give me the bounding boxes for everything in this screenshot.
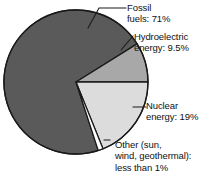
pie-label-nuclear: Nuclear energy: 19% xyxy=(146,100,198,123)
pie-label-hydroelectric: Hydroelectric energy: 9.5% xyxy=(134,31,189,54)
pie-label-other: Other (sun, wind, geothermal): less than… xyxy=(115,139,191,173)
pie-label-fossil-fuels: Fossil fuels: 71% xyxy=(127,2,170,25)
pie-chart-figure: Fossil fuels: 71% Hydroelectric energy: … xyxy=(0,0,206,179)
